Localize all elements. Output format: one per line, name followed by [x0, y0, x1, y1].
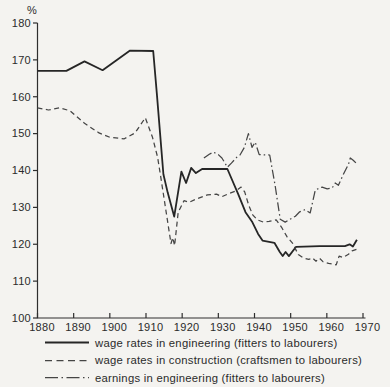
chart-legend: wage rates in engineering (fitters to la… — [44, 334, 362, 387]
x-tick-label: 1970 — [355, 321, 381, 333]
chart-canvas: 1001101201301401501601701801880189019001… — [0, 0, 390, 387]
axes-lines — [38, 23, 366, 318]
x-tick-label: 1960 — [318, 321, 344, 333]
legend-item-wage-rates-engineering: wage rates in engineering (fitters to la… — [44, 334, 362, 352]
y-tick-label: 150 — [12, 127, 31, 139]
x-tick-label: 1910 — [138, 321, 164, 333]
y-tick-label: 180 — [12, 17, 31, 29]
y-tick-label: 110 — [13, 275, 31, 287]
legend-label-wage-rates-construction: wage rates in construction (craftsmen to… — [95, 354, 362, 366]
y-tick-label: 120 — [12, 238, 31, 250]
series-line-dashdot — [204, 134, 357, 223]
legend-label-wage-rates-engineering: wage rates in engineering (fitters to la… — [95, 337, 337, 349]
x-tick-label: 1930 — [210, 321, 236, 333]
solid-line-sample — [44, 338, 90, 347]
y-tick-label: 170 — [12, 54, 31, 66]
legend-item-wage-rates-construction: wage rates in construction (craftsmen to… — [44, 352, 362, 370]
y-tick-label: 130 — [12, 201, 31, 213]
x-tick-label: 1950 — [282, 321, 308, 333]
x-tick-label: 1940 — [246, 321, 272, 333]
y-tick-label: 140 — [12, 164, 31, 176]
x-tick-label: 1880 — [29, 321, 55, 333]
x-tick-label: 1890 — [65, 321, 91, 333]
legend-item-earnings-engineering: earnings in engineering (fitters to labo… — [44, 369, 362, 387]
x-tick-label: 1920 — [174, 321, 200, 333]
x-tick-label: 1900 — [101, 321, 127, 333]
y-tick-label: 100 — [12, 312, 31, 324]
wage-ratio-chart: % 10011012013014015016017018018801890190… — [0, 0, 390, 387]
legend-label-earnings-engineering: earnings in engineering (fitters to labo… — [95, 372, 325, 384]
series-line-dashed — [38, 108, 358, 265]
y-tick-label: 160 — [12, 91, 31, 103]
dashed-line-sample — [44, 356, 90, 365]
dash-dot-line-sample — [44, 373, 90, 382]
series-line-solid — [38, 51, 357, 256]
